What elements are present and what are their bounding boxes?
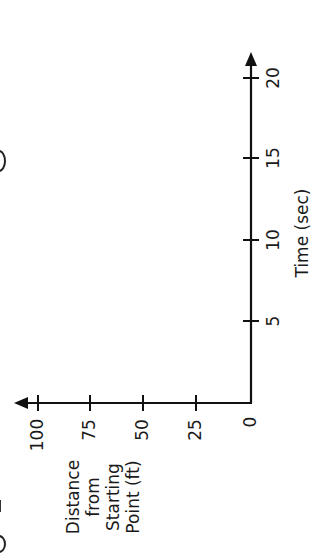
x-tick-label-5: 5	[265, 309, 283, 333]
x-tick-label-20: 20	[265, 66, 283, 90]
y-axis-arrow-icon	[14, 397, 28, 409]
x-tick-label-10: 10	[265, 228, 283, 252]
y-tick-label-75: 75	[81, 415, 99, 445]
y-axis-title-line-2: from	[83, 442, 103, 552]
x-tick-label-15: 15	[265, 146, 283, 170]
x-axis-arrow-icon	[245, 52, 257, 66]
y-tick-label-100: 100	[29, 415, 47, 455]
y-axis-title-line-4: Point (ft)	[123, 442, 143, 552]
x-axis-title: Time (sec)	[292, 178, 312, 288]
y-axis-title-line-1: Distance	[63, 442, 83, 552]
y-axis-title: Distance from Starting Point (ft)	[63, 442, 143, 552]
y-tick-label-50: 50	[134, 415, 152, 445]
origin-label: 0	[242, 407, 260, 437]
cropped-glyph-fragment	[0, 500, 1, 512]
y-axis-title-line-3: Starting	[103, 442, 123, 552]
y-tick-label-25: 25	[187, 415, 205, 445]
